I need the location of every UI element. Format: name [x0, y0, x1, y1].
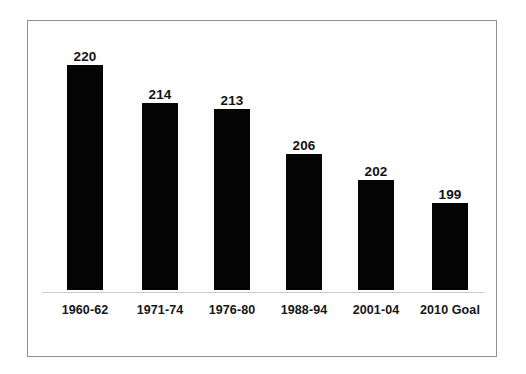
bar-group: 199 2010 Goal	[432, 203, 468, 290]
bar-group: 220 1960-62	[67, 65, 103, 290]
bar[interactable]	[286, 154, 322, 290]
bar-value-label: 214	[130, 87, 190, 102]
plot-area: 220 1960-62 214 1971-74 213 1976-80 206 …	[28, 21, 496, 356]
bar[interactable]	[142, 103, 178, 290]
bar-group: 213 1976-80	[214, 109, 250, 290]
bar-value-label: 202	[346, 164, 406, 179]
chart-figure: 220 1960-62 214 1971-74 213 1976-80 206 …	[0, 0, 526, 374]
bar-value-label: 220	[55, 49, 115, 64]
category-axis-line	[42, 292, 484, 293]
bar-group: 206 1988-94	[286, 154, 322, 290]
bar-value-label: 213	[202, 93, 262, 108]
bar-group: 202 2001-04	[358, 180, 394, 290]
bar[interactable]	[432, 203, 468, 290]
bar[interactable]	[214, 109, 250, 290]
chart-frame: 220 1960-62 214 1971-74 213 1976-80 206 …	[27, 20, 497, 357]
bar-value-label: 199	[420, 187, 480, 202]
bar-group: 214 1971-74	[142, 103, 178, 290]
bar[interactable]	[358, 180, 394, 290]
bar-value-label: 206	[274, 138, 334, 153]
bar-category-label: 2010 Goal	[395, 303, 505, 317]
bar[interactable]	[67, 65, 103, 290]
